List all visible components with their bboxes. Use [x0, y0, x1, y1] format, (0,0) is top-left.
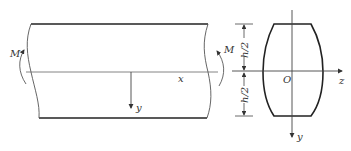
moment-right-label: M: [223, 44, 235, 55]
beam-right-cut: [204, 24, 211, 118]
x-axis-label: x: [178, 73, 184, 84]
beam-bending-diagram: y x M M y z O h/2 h/2: [0, 0, 351, 151]
moment-left-arrow: [20, 50, 26, 84]
section-y-label: y: [296, 131, 303, 142]
upper-half-height-label: h/2: [239, 42, 250, 58]
cross-section-outline: [263, 24, 323, 116]
moment-left-label: M: [9, 48, 21, 59]
beam-left-cut: [27, 24, 39, 118]
origin-label: O: [283, 74, 291, 85]
moment-right-arrow: [217, 51, 224, 86]
beam-y-label: y: [135, 102, 142, 113]
z-axis-label: z: [338, 75, 345, 86]
lower-half-height-label: h/2: [239, 87, 250, 103]
cross-section: y z O h/2 h/2: [232, 10, 345, 142]
beam-side-view: y x M M: [9, 24, 235, 118]
